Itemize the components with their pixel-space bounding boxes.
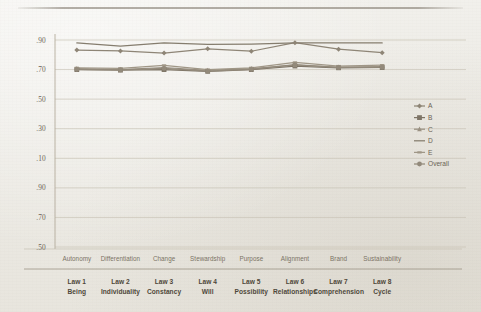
- marker-a: [205, 46, 210, 51]
- legend-label-c: C: [428, 126, 433, 133]
- marker-overall: [380, 65, 385, 70]
- x-category-label: Sustainability: [363, 255, 402, 263]
- x-law-name: Will: [202, 288, 214, 295]
- x-law-number: Law 1: [68, 278, 87, 285]
- marker-a: [292, 40, 297, 45]
- legend-label-b: B: [428, 114, 433, 121]
- y-tick-label: .90: [36, 36, 46, 45]
- legend-marker-b: [417, 115, 422, 120]
- y-tick-label: .50: [36, 95, 46, 104]
- x-law-number: Law 5: [242, 278, 261, 285]
- x-law-name: Constancy: [147, 288, 181, 296]
- marker-overall: [118, 67, 123, 72]
- marker-a: [162, 51, 167, 56]
- x-category-label: Alignment: [281, 255, 310, 263]
- y-tick-label: .70: [36, 213, 46, 222]
- legend-marker-overall: [417, 162, 422, 167]
- marker-a: [336, 47, 341, 52]
- x-category-label: Autonomy: [62, 255, 92, 263]
- series-line-d: [77, 43, 382, 46]
- y-axis-tick-labels: .90.70.50.30.10.90.70.50: [36, 36, 46, 252]
- legend-label-overall: Overall: [428, 160, 449, 167]
- y-tick-label: .10: [36, 154, 46, 163]
- marker-overall: [336, 65, 341, 70]
- x-law-name: Being: [68, 288, 87, 296]
- legend-marker-a: [417, 104, 422, 109]
- x-axis-law-labels: Law 1BeingLaw 2IndividualityLaw 3Constan…: [68, 278, 392, 296]
- marker-overall: [205, 69, 210, 74]
- x-category-label: Change: [153, 255, 176, 263]
- x-law-number: Law 3: [155, 278, 174, 285]
- marker-overall: [249, 67, 254, 72]
- y-tick-label: .90: [36, 183, 46, 192]
- x-law-number: Law 6: [286, 278, 305, 285]
- line-chart-svg: .90.70.50.30.10.90.70.50 AutonomyDiffere…: [0, 0, 481, 312]
- x-category-label: Stewardship: [190, 255, 226, 263]
- x-law-name: Individuality: [101, 288, 140, 296]
- x-law-number: Law 4: [198, 278, 217, 285]
- legend-label-a: A: [428, 102, 433, 109]
- marker-a: [249, 49, 254, 54]
- x-law-name: Comprehension: [313, 288, 364, 296]
- x-category-label: Brand: [330, 255, 348, 262]
- y-tick-label: .30: [36, 124, 46, 133]
- marker-a: [380, 50, 385, 55]
- marker-overall: [293, 62, 298, 67]
- x-axis-category-labels: AutonomyDifferentiationChangeStewardship…: [62, 255, 401, 263]
- x-law-number: Law 7: [329, 278, 348, 285]
- marker-overall: [74, 67, 79, 72]
- x-law-name: Cycle: [373, 288, 391, 296]
- x-law-number: Law 8: [373, 278, 392, 285]
- scanned-figure-page: .90.70.50.30.10.90.70.50 AutonomyDiffere…: [0, 0, 481, 312]
- chart-container: .90.70.50.30.10.90.70.50 AutonomyDiffere…: [0, 0, 481, 312]
- marker-overall: [162, 66, 167, 71]
- marker-a: [74, 48, 79, 53]
- y-tick-label: .50: [36, 243, 46, 252]
- x-law-number: Law 2: [111, 278, 130, 285]
- legend-label-d: D: [428, 137, 433, 144]
- x-law-name: Possibility: [235, 288, 269, 296]
- legend-label-e: E: [428, 149, 433, 156]
- x-law-name: Relationships: [273, 288, 317, 296]
- grid-lines: [55, 40, 466, 247]
- x-category-label: Purpose: [239, 255, 263, 263]
- y-tick-label: .70: [36, 65, 46, 74]
- marker-a: [118, 48, 123, 53]
- chart-legend: ABCDEOverall: [414, 102, 449, 167]
- legend-marker-e: [417, 151, 421, 153]
- x-category-label: Differentiation: [101, 255, 141, 262]
